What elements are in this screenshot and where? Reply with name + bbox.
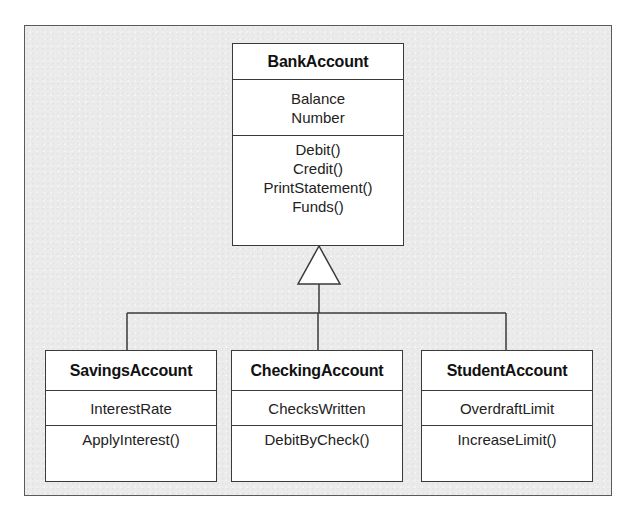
class-name-compartment: BankAccount <box>233 44 403 79</box>
attributes-compartment: ChecksWritten <box>232 390 402 425</box>
class-box-studentaccount: StudentAccount OverdraftLimit IncreaseLi… <box>421 350 593 482</box>
operations-compartment: DebitByCheck() <box>232 425 402 481</box>
class-name: SavingsAccount <box>70 362 193 380</box>
operations-compartment: ApplyInterest() <box>46 425 216 481</box>
operation: DebitByCheck() <box>264 430 369 449</box>
operation: Funds() <box>292 197 344 216</box>
operations-compartment: Debit() Credit() PrintStatement() Funds(… <box>233 135 403 245</box>
attribute: Balance <box>291 89 345 108</box>
class-name: CheckingAccount <box>250 362 383 380</box>
attribute: OverdraftLimit <box>460 399 554 418</box>
class-box-checkingaccount: CheckingAccount ChecksWritten DebitByChe… <box>231 350 403 482</box>
operation: IncreaseLimit() <box>457 430 556 449</box>
class-box-savingsaccount: SavingsAccount InterestRate ApplyInteres… <box>45 350 217 482</box>
operation: ApplyInterest() <box>82 430 180 449</box>
attribute: Number <box>291 108 344 127</box>
attributes-compartment: InterestRate <box>46 390 216 425</box>
class-name: BankAccount <box>268 53 369 71</box>
class-name-compartment: CheckingAccount <box>232 351 402 390</box>
class-name-compartment: StudentAccount <box>422 351 592 390</box>
class-name-compartment: SavingsAccount <box>46 351 216 390</box>
attribute: ChecksWritten <box>268 399 365 418</box>
generalization-triangle-icon <box>298 246 340 284</box>
attributes-compartment: OverdraftLimit <box>422 390 592 425</box>
attributes-compartment: Balance Number <box>233 79 403 135</box>
class-name: StudentAccount <box>447 362 568 380</box>
operations-compartment: IncreaseLimit() <box>422 425 592 481</box>
operation: PrintStatement() <box>263 178 372 197</box>
class-box-bankaccount: BankAccount Balance Number Debit() Credi… <box>232 43 404 246</box>
operation: Debit() <box>295 140 340 159</box>
operation: Credit() <box>293 159 343 178</box>
attribute: InterestRate <box>90 399 172 418</box>
